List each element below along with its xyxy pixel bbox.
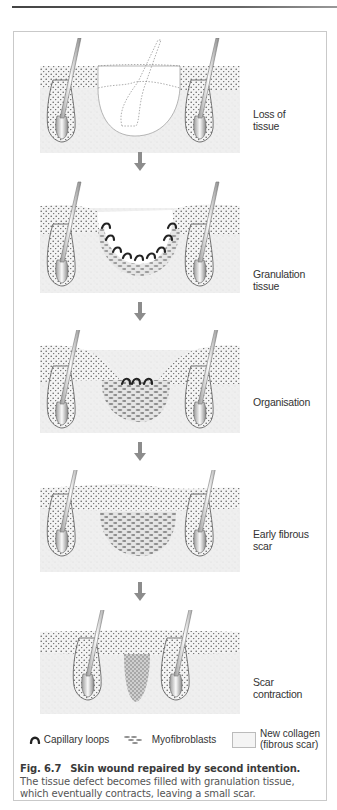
collagen-swatch: [232, 732, 256, 748]
top-rule: [12, 6, 337, 8]
stage-early-fibrous-scar: Early fibrous scar: [0, 470, 337, 580]
figure-caption: Fig. 6.7 Skin wound repaired by second i…: [20, 763, 320, 801]
stage-organisation: Organisation: [0, 330, 337, 440]
organisation-illustration: [0, 330, 337, 440]
stage-label: Loss of tissue: [253, 108, 285, 132]
stage-granulation-tissue: Granulation tissue: [0, 180, 337, 300]
stage-scar-contraction: Scar contraction: [0, 610, 337, 720]
loss-of-tissue-illustration: [0, 38, 337, 158]
down-arrow-icon: [133, 302, 147, 322]
legend: Capillary loops Myofibroblasts New colla…: [13, 728, 327, 758]
down-arrow-icon: [133, 442, 147, 462]
stage-label: Scar contraction: [253, 676, 302, 700]
legend-myofibroblasts: Myofibroblasts: [123, 734, 216, 745]
stage-label: Granulation tissue: [253, 268, 305, 292]
stage-label: Early fibrous scar: [253, 528, 309, 552]
myofibroblast-icon: [123, 734, 145, 744]
down-arrow-icon: [133, 582, 147, 602]
figure-number: Fig. 6.7: [20, 763, 61, 774]
stage-loss-of-tissue: Loss of tissue: [0, 38, 337, 158]
scar-contraction-illustration: [0, 610, 337, 720]
down-arrow-icon: [133, 152, 147, 172]
capillary-loop-icon: [29, 734, 41, 744]
figure-title: Skin wound repaired by second intention.: [70, 763, 300, 774]
figure-description: The tissue defect becomes filled with gr…: [20, 776, 294, 800]
stage-label: Organisation: [253, 396, 310, 408]
early-fibrous-scar-illustration: [0, 470, 337, 580]
legend-capillary-loops: Capillary loops: [29, 734, 109, 745]
